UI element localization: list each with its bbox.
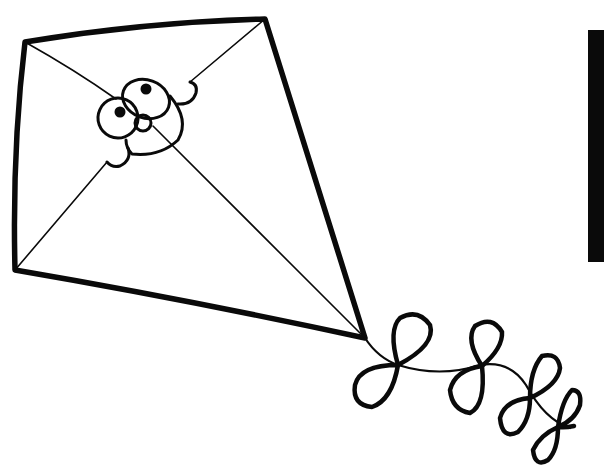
kite-tail-bows <box>355 314 581 462</box>
right-edge-black-bar <box>588 30 604 262</box>
kite-illustration <box>0 0 604 475</box>
